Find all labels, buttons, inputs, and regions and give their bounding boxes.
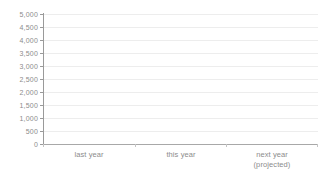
y-tick <box>40 92 43 93</box>
y-axis-tick-label: 0 <box>4 141 38 148</box>
gridline <box>43 14 318 15</box>
y-tick <box>40 27 43 28</box>
y-axis-tick-label: 1,500 <box>4 102 38 109</box>
chart-container: 5,000 4,500 4,000 3,500 3,000 2,500 2,00… <box>0 0 335 183</box>
y-axis-tick-label: 5,000 <box>4 11 38 18</box>
gridline <box>43 53 318 54</box>
y-axis-tick-label: 500 <box>4 128 38 135</box>
gridline <box>43 118 318 119</box>
y-axis-tick-label: 3,500 <box>4 50 38 57</box>
x-tick <box>226 144 227 147</box>
y-tick <box>40 118 43 119</box>
x-tick <box>135 144 136 147</box>
x-tick <box>317 144 318 147</box>
y-tick <box>40 40 43 41</box>
y-tick <box>40 79 43 80</box>
gridline <box>43 66 318 67</box>
y-tick <box>40 14 43 15</box>
x-tick <box>43 144 44 147</box>
y-axis-tick-label: 2,500 <box>4 76 38 83</box>
gridline <box>43 27 318 28</box>
x-axis-tick-label: last year <box>49 150 129 160</box>
y-tick <box>40 105 43 106</box>
y-axis-tick-label: 2,000 <box>4 89 38 96</box>
y-axis-tick-label: 1,000 <box>4 115 38 122</box>
gridline <box>43 105 318 106</box>
x-axis-tick-label: this year <box>141 150 221 160</box>
x-axis-baseline <box>43 144 318 145</box>
gridline <box>43 92 318 93</box>
y-axis-line <box>43 13 44 145</box>
plot-area <box>43 14 318 144</box>
y-tick <box>40 53 43 54</box>
gridline <box>43 79 318 80</box>
y-axis-tick-label: 4,000 <box>4 37 38 44</box>
y-tick <box>40 131 43 132</box>
x-axis-tick-label: next year (projected) <box>232 150 312 169</box>
y-axis-tick-label: 4,500 <box>4 24 38 31</box>
y-axis-labels: 5,000 4,500 4,000 3,500 3,000 2,500 2,00… <box>0 0 38 183</box>
y-tick <box>40 66 43 67</box>
gridline <box>43 131 318 132</box>
y-axis-tick-label: 3,000 <box>4 63 38 70</box>
gridline <box>43 40 318 41</box>
